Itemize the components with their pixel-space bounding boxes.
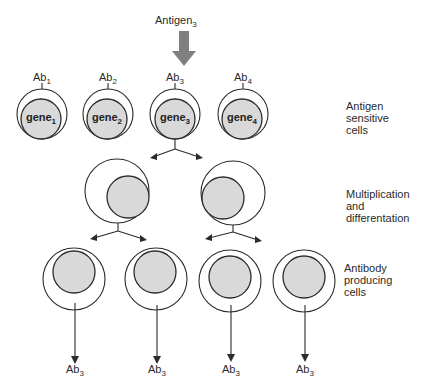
antigen-arrow-icon — [172, 31, 196, 66]
gene-subscript: 2 — [118, 117, 122, 126]
side-label-line: Antigen — [346, 100, 389, 112]
gene-label-3: gene3 — [150, 111, 200, 123]
antibody-producing-cell-4 — [273, 250, 335, 362]
ab-subscript: 3 — [79, 369, 83, 378]
side-label-line: Antibody — [344, 262, 392, 274]
ab-label-3: Ab3 — [166, 71, 184, 84]
antibody-producing-cell-1 — [43, 248, 105, 364]
ab-subscript: 3 — [179, 77, 183, 86]
side-label-antigen-sensitive: Antigen sensitive cells — [346, 100, 389, 136]
gene-label-1: gene1 — [16, 111, 66, 123]
ab-text: Ab — [99, 71, 112, 83]
ab-text: Ab — [296, 363, 309, 375]
antibody-producing-cell-3 — [199, 250, 261, 362]
gene-text: gene — [92, 111, 118, 123]
antibody-producing-cell-2 — [125, 248, 187, 364]
split-arrow-icon — [150, 139, 203, 160]
output-ab-label-3: Ab3 — [222, 363, 240, 376]
dividing-cell-right — [201, 161, 265, 225]
side-label-line: differentation — [346, 212, 410, 224]
side-label-line: cells — [344, 286, 392, 298]
ab-text: Ab — [148, 363, 161, 375]
ab-text: Ab — [166, 71, 179, 83]
split-arrow-right-icon — [205, 225, 262, 243]
antigen-label: Antigen3 — [155, 14, 197, 27]
ab-label-1: Ab1 — [33, 71, 51, 84]
gene-text: gene — [26, 111, 52, 123]
ab-subscript: 3 — [161, 369, 165, 378]
output-ab-label-1: Ab3 — [66, 363, 84, 376]
side-label-line: Multiplication — [346, 188, 410, 200]
ab-text: Ab — [66, 363, 79, 375]
gene-text: gene — [160, 111, 186, 123]
side-label-multiplication: Multiplication and differentation — [346, 188, 410, 224]
ab-subscript: 1 — [46, 77, 50, 86]
gene-label-2: gene2 — [82, 111, 132, 123]
gene-subscript: 3 — [186, 117, 190, 126]
gene-text: gene — [227, 111, 253, 123]
ab-subscript: 3 — [309, 369, 313, 378]
side-label-line: sensitive — [346, 112, 389, 124]
dividing-cell-left — [85, 159, 149, 223]
gene-subscript: 4 — [253, 117, 257, 126]
gene-label-4: gene4 — [217, 111, 267, 123]
output-ab-label-4: Ab3 — [296, 363, 314, 376]
antigen-subscript: 3 — [192, 20, 196, 29]
ab-subscript: 4 — [247, 77, 251, 86]
side-label-line: cells — [346, 124, 389, 136]
split-arrow-left-icon — [90, 223, 147, 242]
ab-text: Ab — [222, 363, 235, 375]
gene-subscript: 1 — [52, 117, 56, 126]
side-label-line: producing — [344, 274, 392, 286]
side-label-line: and — [346, 200, 410, 212]
ab-label-4: Ab4 — [234, 71, 252, 84]
antigen-text: Antigen — [155, 14, 192, 26]
ab-text: Ab — [234, 71, 247, 83]
ab-subscript: 2 — [112, 77, 116, 86]
side-label-antibody-producing: Antibody producing cells — [344, 262, 392, 298]
ab-subscript: 3 — [235, 369, 239, 378]
ab-label-2: Ab2 — [99, 71, 117, 84]
output-ab-label-2: Ab3 — [148, 363, 166, 376]
ab-text: Ab — [33, 71, 46, 83]
